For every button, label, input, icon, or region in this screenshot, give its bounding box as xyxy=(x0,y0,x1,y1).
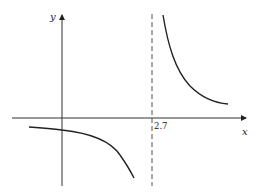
y-axis-label: y xyxy=(49,11,56,22)
asymptote-label: 2.7 xyxy=(154,121,168,131)
curve-right-branch xyxy=(163,15,228,104)
chart: y x 2.7 xyxy=(0,0,258,192)
curve-left-branch xyxy=(29,127,134,178)
x-axis-label: x xyxy=(242,126,248,137)
